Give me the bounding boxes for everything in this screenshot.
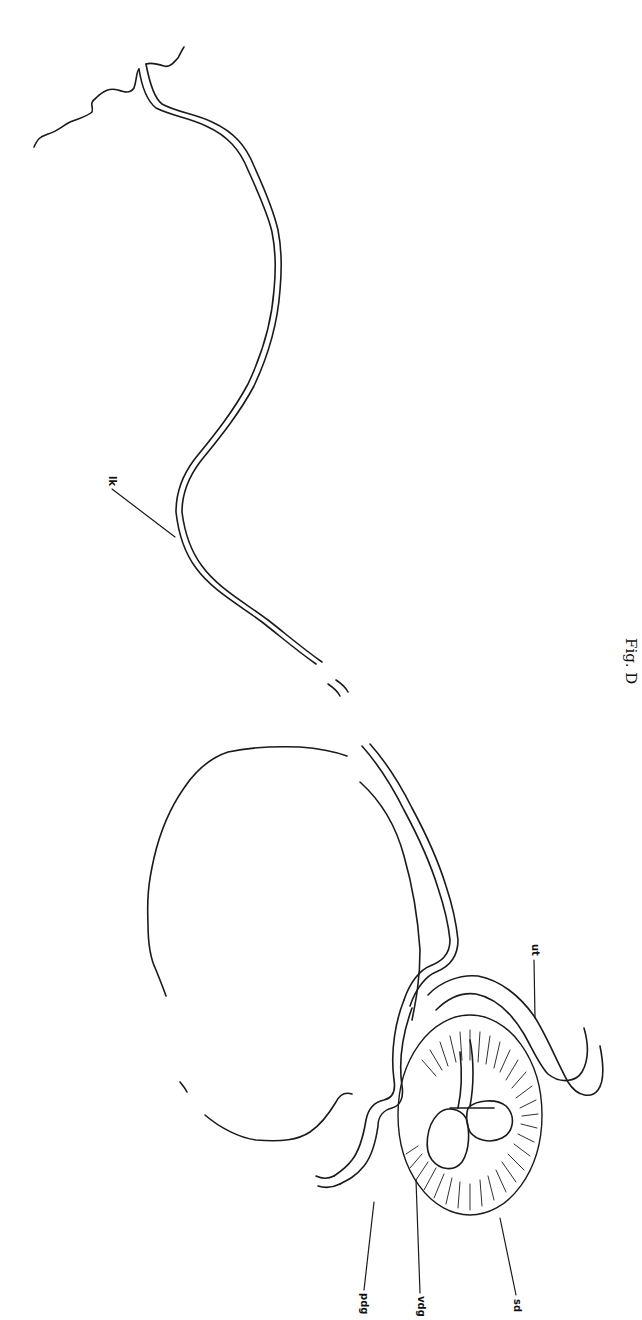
leader-vdg [416, 1180, 420, 1293]
duct-inner-line [146, 64, 322, 662]
duct-lower-inner [370, 744, 458, 1006]
central-lobe-loop [467, 1101, 513, 1141]
anatomical-figure: lk ut sd vdg pdg Fig. D [0, 0, 642, 1320]
label-lk: lk [107, 476, 118, 486]
duct-frayed-end-left [34, 69, 139, 147]
label-pdg: pdg [359, 1293, 370, 1314]
leader-lk [112, 489, 175, 537]
label-sd: sd [512, 1299, 523, 1312]
duct-lower-outer [362, 746, 450, 1000]
leader-ut [534, 960, 535, 1018]
duct-outer-line [139, 69, 316, 664]
leader-pdg [364, 1202, 374, 1290]
sac-dash [180, 1082, 187, 1092]
figure-drawing [0, 0, 642, 1320]
central-lobe-left [427, 1109, 468, 1169]
genital-duct-outer [334, 1000, 404, 1176]
label-vdg: vdg [416, 1296, 427, 1317]
figure-caption: Fig. D [622, 638, 640, 684]
sac-outline-bottom [205, 1093, 352, 1140]
duct-frayed-end-right [146, 47, 184, 66]
leader-sd [500, 1218, 516, 1295]
genital-pore-curve [316, 1176, 334, 1178]
genital-duct-inner [340, 1008, 412, 1184]
sac-outline-top [148, 747, 347, 996]
label-ut: ut [530, 944, 541, 956]
